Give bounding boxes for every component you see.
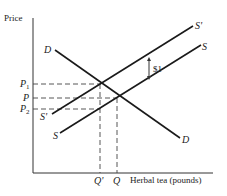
p2-label: P2 <box>19 103 30 116</box>
supply-shifted-label-top: S' <box>195 20 203 31</box>
supply-label-top: S <box>202 41 207 52</box>
p-label: P <box>22 92 29 103</box>
tax-label: $1 <box>153 64 162 74</box>
supply-shifted-label-bottom: S' <box>40 111 48 122</box>
supply-demand-diagram: Price Herbal tea (pounds) D D S S S' S' … <box>0 0 227 196</box>
p1-label: P1 <box>19 78 30 91</box>
q-prime-label: Q' <box>94 175 104 186</box>
arrow-up-icon <box>147 57 151 61</box>
supply-shifted-curve <box>52 26 193 114</box>
q-label: Q <box>113 175 121 186</box>
supply-curve <box>60 45 201 133</box>
demand-label-top: D <box>43 44 52 55</box>
supply-label-bottom: S <box>53 130 58 141</box>
demand-label-bottom: D <box>181 134 190 145</box>
x-axis-label: Herbal tea (pounds) <box>130 175 201 185</box>
y-axis-label: Price <box>4 13 23 23</box>
